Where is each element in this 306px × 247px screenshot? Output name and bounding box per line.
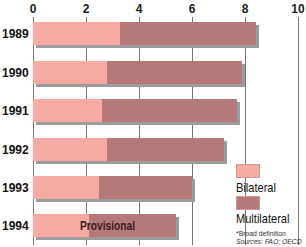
bar-bilateral xyxy=(33,176,99,199)
bar-bilateral xyxy=(33,61,107,84)
category-label: 1993 xyxy=(2,181,29,195)
gridline xyxy=(298,17,299,245)
category-label: 1991 xyxy=(2,104,29,118)
x-tick-label: 4 xyxy=(136,2,143,16)
gridline xyxy=(192,17,193,245)
x-tick-label: 0 xyxy=(30,2,37,16)
bar-bilateral xyxy=(33,138,107,161)
legend-bilateral-label: Bilateral xyxy=(236,180,276,195)
x-tick-label: 6 xyxy=(189,2,196,16)
bar-multilateral xyxy=(107,61,242,84)
x-tick-label: 10 xyxy=(291,2,304,16)
x-tick-label: 8 xyxy=(242,2,249,16)
bar-multilateral xyxy=(107,138,224,161)
gridline xyxy=(86,17,87,245)
category-label: 1989 xyxy=(2,27,29,41)
bar-bilateral xyxy=(33,22,120,45)
category-label: 1992 xyxy=(2,143,29,157)
footnote-sources: Sources: FAO; OECD xyxy=(236,237,302,246)
gridline xyxy=(33,17,34,245)
bar-multilateral xyxy=(102,99,237,122)
x-tick-label: 2 xyxy=(83,2,90,16)
bar-bilateral xyxy=(33,99,102,122)
bar-multilateral xyxy=(120,22,255,45)
legend-bilateral-swatch xyxy=(236,164,260,178)
provisional-annotation: Provisional xyxy=(80,219,135,233)
legend-multilateral-label: Multilateral xyxy=(236,211,289,226)
category-label: 1990 xyxy=(2,66,29,80)
bar-multilateral xyxy=(99,176,192,199)
legend-multilateral-swatch xyxy=(236,196,260,210)
category-label: 1994 xyxy=(2,219,29,233)
gridline xyxy=(139,17,140,245)
